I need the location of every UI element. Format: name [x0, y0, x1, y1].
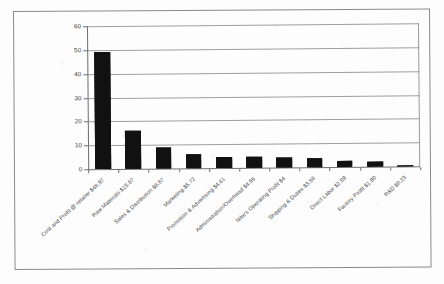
- x-tick-mark: [179, 169, 180, 172]
- y-tick-mark: [83, 74, 88, 75]
- x-axis-category-labels: Cost and Profit @ retailer $48.97Raw Mat…: [0, 0, 444, 284]
- category-label: Cost and Profit @ retailer $48.97: [0, 177, 105, 284]
- y-tick-mark: [84, 121, 89, 122]
- y-tick-mark: [84, 145, 89, 146]
- x-tick-mark: [149, 170, 150, 173]
- x-tick-mark: [390, 168, 391, 171]
- x-tick-mark: [88, 170, 89, 173]
- x-tick-mark: [269, 169, 270, 172]
- x-tick-mark: [330, 168, 331, 171]
- x-tick-mark: [118, 170, 119, 173]
- x-tick-mark: [299, 168, 300, 171]
- y-tick-mark: [84, 98, 89, 99]
- y-tick-mark: [83, 26, 88, 27]
- x-tick-mark: [420, 167, 421, 170]
- x-tick-mark: [209, 169, 210, 172]
- bar-chart: 0102030405060 Cost and Profit @ retailer…: [0, 0, 444, 284]
- x-tick-mark: [239, 169, 240, 172]
- x-tick-mark: [360, 168, 361, 171]
- y-tick-mark: [83, 50, 88, 51]
